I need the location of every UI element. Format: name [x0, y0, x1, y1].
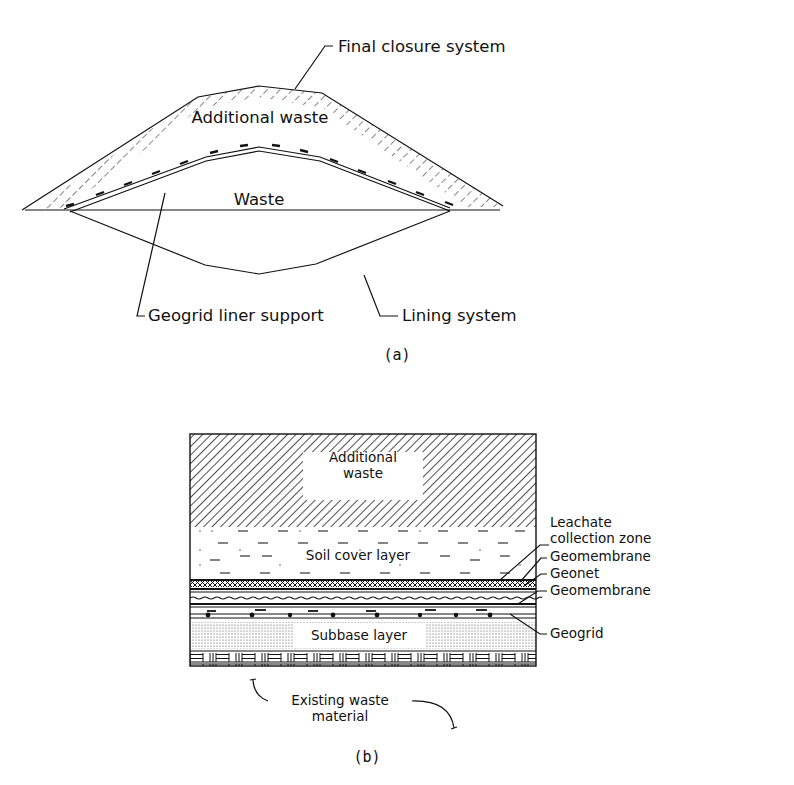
- figure-b: Additional waste Soil cover layer Subbas…: [190, 434, 651, 766]
- waste-label: Waste: [234, 190, 285, 209]
- lining-leader: [364, 275, 398, 316]
- leachate-label-1: Leachate: [550, 514, 612, 530]
- existing-waste-leader-left: [253, 680, 268, 701]
- soil-cover-label: Soil cover layer: [306, 547, 411, 563]
- geogrid-nodes: [206, 613, 493, 618]
- geonet-band: [190, 581, 536, 587]
- landfill-liner-diagram: Additional waste Waste Final closure sys…: [0, 0, 794, 785]
- caption-a: (a): [383, 346, 410, 364]
- caption-b: (b): [353, 748, 380, 766]
- geomembrane-bottom-label: Geomembrane: [550, 582, 651, 598]
- geomembrane-wavy: [190, 597, 542, 599]
- figure-a: Additional waste Waste Final closure sys…: [22, 37, 517, 364]
- lining-system-line: [70, 211, 450, 274]
- existing-waste-leader-right: [412, 701, 454, 728]
- existing-waste-label-2: material: [312, 708, 368, 724]
- subbase-label: Subbase layer: [311, 627, 407, 643]
- geogrid-liner-label: Geogrid liner support: [148, 306, 324, 325]
- geogrid-leader: [137, 193, 165, 316]
- existing-waste-label-1: Existing waste: [291, 692, 389, 708]
- leachate-label-2: collection zone: [550, 530, 651, 546]
- existing-waste-arrow-left: [250, 679, 256, 680]
- geonet-label: Geonet: [550, 565, 599, 581]
- additional-waste-label-1: Additional: [329, 449, 397, 465]
- lining-system-label: Lining system: [402, 306, 517, 325]
- additional-waste-label-2: waste: [343, 465, 383, 481]
- final-closure-label: Final closure system: [338, 37, 506, 56]
- geogrid-dashes: [207, 610, 487, 611]
- geomembrane-bottom-leader: [518, 591, 547, 604]
- additional-waste-label: Additional waste: [192, 108, 329, 127]
- geogrid-label: Geogrid: [550, 625, 603, 641]
- existing-waste-block: [190, 653, 536, 666]
- geomembrane-top-label: Geomembrane: [550, 548, 651, 564]
- final-closure-leader: [295, 46, 333, 89]
